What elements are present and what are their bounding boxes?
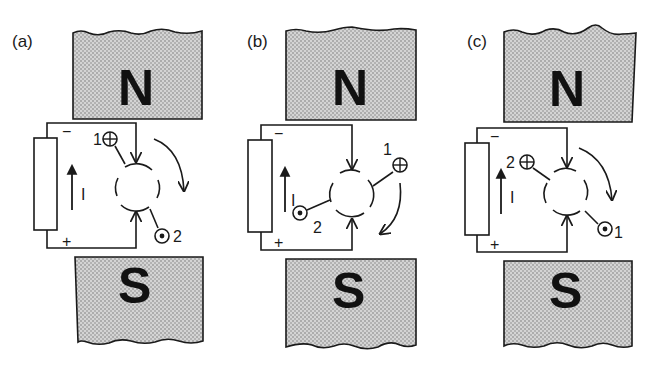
conductor-out-of-page-a bbox=[155, 229, 169, 243]
coil-arm-2-c bbox=[585, 211, 598, 224]
conductor-out-of-page-c bbox=[598, 222, 612, 236]
battery-c bbox=[465, 143, 489, 235]
south-pole-label-b: S bbox=[332, 263, 365, 319]
south-pole-label-a: S bbox=[118, 258, 151, 314]
conductor-into-page-a bbox=[103, 132, 117, 146]
south-magnet-c: S bbox=[504, 261, 632, 348]
conductor-number-into-a: 1 bbox=[93, 131, 102, 148]
panel-c: (c) N S − + I 2 bbox=[465, 25, 636, 348]
north-pole-label-b: N bbox=[332, 60, 368, 116]
current-label-a: I bbox=[81, 186, 85, 203]
battery-minus-c: − bbox=[490, 128, 499, 145]
coil-arm-2-b bbox=[307, 200, 330, 210]
commutator-b bbox=[330, 170, 374, 217]
conductor-number-into-c: 2 bbox=[506, 154, 515, 171]
rotation-arrow-b bbox=[380, 183, 401, 234]
commutator-a bbox=[116, 164, 160, 211]
battery-plus-b: + bbox=[274, 234, 283, 251]
north-magnet-b: N bbox=[286, 27, 416, 120]
motor-commutation-diagram: (a) N S − + I bbox=[0, 0, 664, 371]
commutator-c bbox=[544, 169, 587, 216]
panel-a: (a) N S − + I bbox=[12, 29, 203, 344]
south-magnet-b: S bbox=[286, 259, 416, 349]
north-pole-label-c: N bbox=[549, 61, 585, 117]
north-magnet-c: N bbox=[504, 25, 636, 122]
battery-plus-c: + bbox=[490, 236, 499, 253]
south-pole-label-c: S bbox=[549, 263, 582, 319]
coil-arm-2-a bbox=[150, 209, 158, 228]
coil-arm-1-c bbox=[533, 168, 550, 180]
conductor-number-out-b: 2 bbox=[313, 219, 322, 236]
coil-arm-1-b bbox=[373, 172, 393, 186]
panel-b: (b) N S − + I 1 bbox=[247, 27, 416, 349]
panel-label-a: (a) bbox=[12, 32, 33, 51]
battery-a bbox=[34, 138, 57, 230]
conductor-out-of-page-b bbox=[293, 206, 307, 220]
conductor-number-into-b: 1 bbox=[383, 141, 392, 158]
battery-b bbox=[248, 140, 272, 232]
conductor-number-out-a: 2 bbox=[173, 228, 182, 245]
conductor-number-out-c: 1 bbox=[614, 224, 623, 241]
current-label-b: I bbox=[291, 192, 295, 209]
north-magnet-a: N bbox=[73, 29, 202, 119]
current-label-c: I bbox=[510, 189, 514, 206]
panel-label-c: (c) bbox=[467, 32, 487, 51]
north-pole-label-a: N bbox=[118, 60, 154, 116]
battery-minus-a: − bbox=[62, 123, 71, 140]
top-wire-a bbox=[47, 123, 136, 162]
conductor-into-page-c bbox=[520, 155, 534, 169]
south-magnet-a: S bbox=[75, 257, 203, 344]
conductor-into-page-b bbox=[393, 158, 407, 172]
coil-arm-1-a bbox=[115, 146, 125, 164]
panel-label-b: (b) bbox=[247, 32, 268, 51]
rotation-arrow-c bbox=[579, 148, 612, 200]
battery-minus-b: − bbox=[274, 125, 283, 142]
bottom-wire-a bbox=[47, 212, 136, 248]
